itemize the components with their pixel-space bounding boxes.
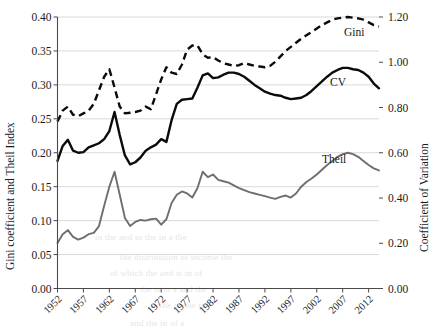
- series-inline-labels: GiniCVTheil: [322, 26, 364, 165]
- x-axis-tick-label: 1987: [223, 293, 246, 316]
- series-label-theil: Theil: [322, 153, 346, 165]
- x-axis-tick-label: 1977: [171, 293, 194, 316]
- y-axis-left-ticks: 0.000.050.100.150.200.250.300.350.40: [31, 11, 57, 295]
- series-line-theil: [58, 153, 380, 243]
- x-axis-tick-label: 1952: [41, 293, 64, 316]
- y-axis-right-tick-label: 0.20: [388, 237, 408, 249]
- y-axis-left-tick-label: 0.15: [31, 181, 51, 193]
- x-axis-tick-label: 2012: [352, 293, 375, 316]
- x-axis-tick-label: 1982: [197, 293, 220, 316]
- y-axis-left-tick-label: 0.20: [31, 147, 51, 159]
- series-label-gini: Gini: [344, 26, 364, 38]
- y-axis-right-tick-label: 1.00: [388, 56, 408, 68]
- y-axis-right-tick-label: 0.60: [388, 147, 408, 159]
- y-axis-left-tick-label: 0.40: [31, 11, 51, 23]
- y-axis-right-tick-label: 0.00: [388, 283, 408, 295]
- x-axis-tick-label: 1967: [119, 293, 142, 316]
- y-axis-right-ticks: 0.000.200.400.600.801.001.20: [379, 11, 408, 295]
- x-axis-tick-label: 1997: [275, 293, 298, 316]
- x-axis-ticks: 1952195719621967197219771982198719921997…: [41, 289, 375, 316]
- y-axis-right-tick-label: 1.20: [388, 11, 408, 23]
- y-axis-left-tick-label: 0.10: [31, 215, 51, 227]
- x-axis-tick-label: 1957: [67, 293, 90, 316]
- y-axis-left-tick-label: 0.30: [31, 79, 51, 91]
- x-axis-tick-label: 1992: [249, 293, 272, 316]
- y-axis-left-tick-label: 0.35: [31, 45, 51, 57]
- x-axis-tick-label: 2002: [301, 293, 324, 316]
- y-axis-right-tick-label: 0.80: [388, 102, 408, 114]
- y-axis-right-tick-label: 0.40: [388, 192, 408, 204]
- y-axis-left-tick-label: 0.00: [31, 283, 51, 295]
- x-axis-tick-label: 2007: [326, 293, 349, 316]
- series-label-cv: CV: [330, 76, 347, 88]
- y-axis-left-tick-label: 0.25: [31, 113, 51, 125]
- x-axis-tick-label: 1962: [93, 293, 116, 316]
- y-axis-left-tick-label: 0.05: [31, 249, 51, 261]
- x-axis-tick-label: 1972: [145, 293, 168, 316]
- series-line-gini: [58, 17, 380, 122]
- y-axis-left-title: Gini coefficient and Theil Index: [4, 122, 16, 270]
- chart-figure: in the and to the in a thethe distributi…: [0, 0, 437, 333]
- y-axis-right-title: Coefficient of Variation: [418, 143, 430, 252]
- line-chart: 0.000.050.100.150.200.250.300.350.40 0.0…: [0, 0, 437, 333]
